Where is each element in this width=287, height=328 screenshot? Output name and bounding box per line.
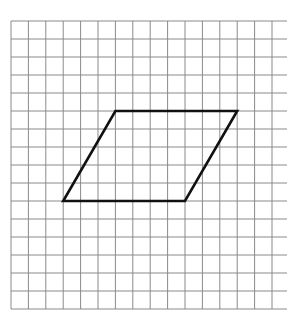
grid-diagram [0,0,287,328]
grid-lines [11,21,287,309]
